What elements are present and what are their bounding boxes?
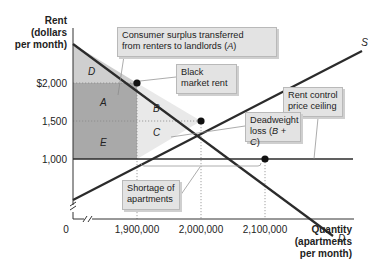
x-axis-title-line3: per month): [300, 248, 352, 259]
y-tick-1500: 1,500: [42, 116, 67, 127]
rent-control-line1: Rent control: [288, 90, 338, 101]
y-axis-title-line1: Rent: [45, 15, 68, 26]
region-b-label: B: [153, 103, 160, 114]
equilibrium-point: [197, 117, 204, 124]
supply-label: S: [361, 37, 368, 48]
x-tick-0: 0: [63, 224, 69, 235]
consumer-surplus-annotation: Consumer surplus transferred from renter…: [117, 27, 277, 57]
y-axis-title-line2: (dollars: [31, 27, 68, 38]
black-market-line2: market rent: [181, 78, 232, 89]
x-tick-2100000: 2,100,000: [243, 224, 288, 235]
x-axis-title-line2: (apartments: [295, 236, 353, 247]
shortage-line2: apartments: [127, 194, 175, 205]
deadweight-line1: Deadweight: [250, 115, 296, 126]
consumer-surplus-end: ): [233, 41, 236, 51]
y-tick-1000: 1,000: [42, 154, 67, 165]
shortage-annotation: Shortage of apartments: [122, 180, 180, 210]
consumer-surplus-text: from renters to landlords (: [122, 41, 227, 51]
region-c-label: C: [153, 127, 161, 138]
black-market-annotation: Black market rent: [176, 64, 237, 94]
deadweight-line2: loss (B + C): [250, 126, 296, 148]
region-e-label: E: [100, 137, 107, 148]
leader-black-market: [140, 77, 176, 81]
region-d-label: D: [88, 66, 95, 77]
leader-rent-control: [314, 118, 318, 159]
y-axis-title-line3: per month): [15, 39, 67, 50]
x-tick-2000000: 2,000,000: [179, 224, 224, 235]
ceiling-demand-point: [261, 155, 268, 162]
region-a-label: A: [99, 97, 107, 108]
deadweight-text: loss (: [250, 126, 272, 136]
consumer-surplus-line1: Consumer surplus transferred: [122, 30, 272, 41]
shortage-line1: Shortage of: [127, 183, 175, 194]
x-axis-title-line1: Quantity: [311, 224, 352, 235]
leader-shortage: [180, 167, 200, 196]
deadweight-end: ): [257, 137, 260, 147]
black-market-line1: Black: [181, 67, 232, 78]
deadweight-annotation: Deadweight loss (B + C): [245, 112, 301, 142]
x-tick-1900000: 1,900,000: [115, 224, 160, 235]
rent-control-line2: price ceiling: [288, 101, 338, 112]
consumer-surplus-line2: from renters to landlords (A): [122, 41, 272, 52]
y-tick-2000: $2,000: [36, 78, 67, 89]
black-market-point: [133, 79, 140, 86]
